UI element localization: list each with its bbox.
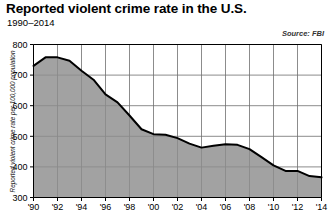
x-tick-label: '14 (316, 202, 328, 212)
x-tick-label: '94 (76, 202, 88, 212)
x-tick-label: '04 (196, 202, 208, 212)
x-tick-label: '10 (268, 202, 280, 212)
x-tick-label: '96 (100, 202, 112, 212)
x-tick-label: '90 (28, 202, 40, 212)
y-tick-label: 300 (12, 193, 27, 203)
chart-plot-area: 300400500600700800 '90'92'94'96'98'00'02… (0, 0, 328, 214)
x-tick-label: '02 (172, 202, 184, 212)
y-tick-label: 800 (12, 40, 27, 50)
y-tick-label: 500 (12, 132, 27, 142)
x-tick-label: '92 (52, 202, 64, 212)
x-tick-label: '08 (244, 202, 256, 212)
x-tick-labels: '90'92'94'96'98'00'02'04'06'08'10'12'14 (28, 202, 328, 212)
x-tick-label: '98 (124, 202, 136, 212)
x-tick-label: '12 (292, 202, 304, 212)
chart-figure: Reported violent crime rate in the U.S. … (0, 0, 328, 214)
x-tick-label: '00 (148, 202, 160, 212)
y-tick-label: 700 (12, 70, 27, 80)
y-tick-labels: 300400500600700800 (12, 40, 27, 203)
y-tick-label: 400 (12, 162, 27, 172)
y-tick-label: 600 (12, 101, 27, 111)
x-tick-label: '06 (220, 202, 232, 212)
